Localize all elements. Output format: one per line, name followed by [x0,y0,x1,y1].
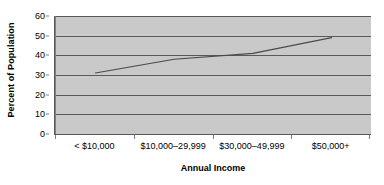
x-axis-title: Annual Income [55,163,371,173]
y-axis-tick-mark [46,114,49,115]
y-axis-title: Percent of Population [0,0,22,140]
chart-container: Percent of Population 0102030405060 < $1… [0,0,384,185]
x-axis-tick-mark [213,135,214,139]
plot-area [55,16,371,134]
y-axis-tick-label: 60 [35,11,45,21]
y-axis-tick-mark [46,94,49,95]
x-axis-tick-mark [55,135,56,139]
x-axis-tick-label: $50,000+ [312,141,350,151]
y-axis-tick-mark [46,55,49,56]
y-axis-tick-label: 50 [35,31,45,41]
y-axis-tick-label: 10 [35,109,45,119]
y-axis-tick-labels: 0102030405060 [22,16,49,134]
y-axis-title-text: Percent of Population [6,22,16,117]
y-axis-tick-mark [46,16,49,17]
series-line-chart [56,16,371,134]
x-axis-tick-mark [369,135,370,139]
y-axis-tick-mark [46,75,49,76]
x-axis-tick-mark [134,135,135,139]
x-axis-tick-labels: < $10,000$10,000–29,999$30,000–49,999$50… [55,141,371,155]
x-axis-tick-label: < $10,000 [74,141,114,151]
y-axis-tick-mark [46,134,49,135]
y-axis-tick-label: 30 [35,70,45,80]
y-axis-tick-mark [46,35,49,36]
y-axis-tick-label: 40 [35,50,45,60]
x-axis-tick-marks [55,135,371,140]
series-line-percent-of-population [95,38,331,73]
x-axis-tick-label: $10,000–29,999 [141,141,206,151]
y-axis-tick-label: 20 [35,90,45,100]
x-axis-tick-mark [291,135,292,139]
x-axis-tick-label: $30,000–49,999 [219,141,284,151]
y-axis-tick-label: 0 [40,129,45,139]
